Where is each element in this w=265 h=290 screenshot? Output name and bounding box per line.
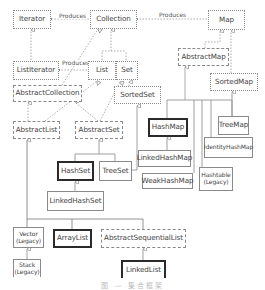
node-sortedset: SortedSet	[114, 86, 161, 104]
node-treeset: TreeSet	[99, 161, 132, 181]
node-hashmap: HashMap	[148, 118, 188, 137]
node-arraylist: ArrayList	[53, 229, 92, 248]
node-label: LinkedHashMap	[137, 154, 192, 162]
node-label: AbstractCollection	[16, 89, 80, 97]
produces-label-iterator: Produces	[58, 13, 87, 19]
node-linkedhashmap: LinkedHashMap	[138, 150, 191, 167]
node-label: LinkedList	[126, 266, 161, 274]
node-label: LinkedHashSet	[49, 197, 101, 205]
node-label: Set	[121, 66, 133, 74]
node-abstractcollection: AbstractCollection	[13, 85, 82, 102]
node-label: AbstractSet	[79, 126, 120, 134]
node-label: Map	[219, 16, 234, 24]
node-identityhashmap: IdentityHashMap	[204, 137, 253, 158]
node-label: Collection	[96, 15, 131, 23]
node-linkedlist: LinkedList	[121, 260, 166, 278]
node-set: Set	[116, 61, 138, 80]
node-label: List	[96, 66, 108, 74]
node-sortedmap: SortedMap	[210, 73, 258, 91]
node-label: SortedSet	[120, 91, 155, 99]
produces-label-map: Produces	[158, 12, 187, 18]
figure-caption: 图 — 集合框架	[0, 280, 265, 290]
legacy-note: (Legacy)	[14, 269, 39, 276]
node-label: ArrayList	[57, 234, 88, 242]
node-label: AbstractMap	[181, 53, 225, 61]
node-vector: Vector (Legacy)	[13, 227, 44, 248]
node-label: WeakHashMap	[142, 177, 194, 185]
node-label: TreeSet	[102, 167, 128, 175]
node-abstractlist: AbstractList	[13, 121, 60, 139]
node-abstractset: AbstractSet	[75, 121, 123, 139]
node-iterator: Iterator	[13, 10, 51, 29]
node-label: HashSet	[61, 167, 90, 175]
node-abstractsequentiallist: AbstractSequentialList	[101, 229, 186, 248]
node-listiterator: ListIterator	[13, 61, 59, 80]
node-label: AbstractSequentialList	[104, 234, 183, 242]
node-hashtable: Hashtable (Legacy)	[199, 167, 233, 191]
node-label: SortedMap	[215, 78, 253, 86]
produces-label-listiterator: Produces	[61, 60, 90, 66]
node-list: List	[88, 61, 116, 80]
node-weakhashmap: WeakHashMap	[142, 173, 193, 189]
node-label: IdentityHashMap	[204, 144, 253, 151]
node-label: HashMap	[152, 123, 185, 131]
node-hashset: HashSet	[57, 161, 94, 181]
node-collection: Collection	[90, 10, 137, 29]
node-treemap: TreeMap	[218, 116, 249, 135]
node-label: TreeMap	[219, 121, 248, 129]
node-stack: Stack (Legacy)	[13, 259, 41, 277]
node-label: AbstractList	[16, 126, 58, 134]
node-map: Map	[208, 10, 245, 30]
legacy-note: (Legacy)	[16, 238, 41, 245]
node-label: Iterator	[19, 15, 45, 23]
node-label: ListIterator	[17, 66, 55, 74]
legacy-note: (Legacy)	[203, 179, 228, 186]
node-linkedhashset: LinkedHashSet	[47, 191, 104, 211]
node-abstractmap: AbstractMap	[178, 48, 229, 66]
